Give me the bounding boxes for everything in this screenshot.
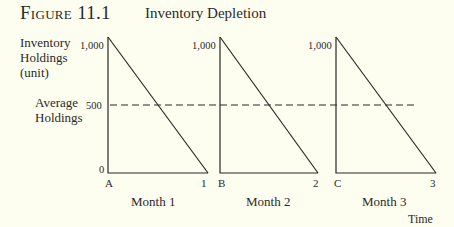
label-c: C bbox=[334, 177, 341, 189]
inventory-chart bbox=[0, 0, 454, 227]
month-3-label: Month 3 bbox=[362, 194, 406, 210]
month-1-label: Month 1 bbox=[131, 194, 175, 210]
label-2: 2 bbox=[313, 177, 319, 189]
label-3: 3 bbox=[430, 177, 436, 189]
time-axis-label: Time bbox=[408, 212, 433, 227]
label-a: A bbox=[105, 177, 113, 189]
label-1: 1 bbox=[201, 177, 207, 189]
label-b: B bbox=[218, 177, 225, 189]
month-2-label: Month 2 bbox=[246, 194, 290, 210]
